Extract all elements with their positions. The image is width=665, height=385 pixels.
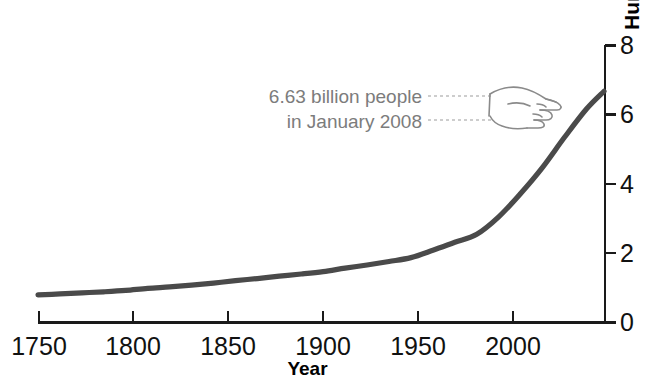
y-tick-label-0: 0	[620, 310, 634, 335]
x-tick-label-1850: 1850	[200, 334, 256, 359]
x-axis-ticks	[39, 311, 513, 323]
x-tick-label-1900: 1900	[295, 334, 351, 359]
y-tick-label-6: 6	[620, 102, 634, 127]
population-growth-chart: 1750 1800 1850 1900 1950 2000 0 2 4 6 8 …	[0, 0, 665, 385]
x-tick-label-1750: 1750	[11, 334, 67, 359]
annotation-line-1: 6.63 billion people	[222, 84, 422, 109]
annotation-leader-lines	[428, 96, 492, 120]
y-tick-label-8: 8	[620, 33, 634, 58]
annotation-text: 6.63 billion people in January 2008	[222, 84, 422, 134]
x-tick-label-1800: 1800	[105, 334, 161, 359]
y-axis-ticks	[605, 46, 616, 323]
chart-plot-area	[0, 0, 665, 385]
x-axis-title: Year	[0, 358, 615, 380]
y-tick-label-4: 4	[620, 172, 634, 197]
y-axis-title: Human population size (in billions)	[617, 0, 647, 30]
x-tick-label-1950: 1950	[390, 334, 446, 359]
pointing-hand-icon	[489, 87, 561, 128]
annotation-line-2: in January 2008	[222, 109, 422, 134]
x-tick-label-2000: 2000	[485, 334, 541, 359]
y-tick-label-2: 2	[620, 241, 634, 266]
